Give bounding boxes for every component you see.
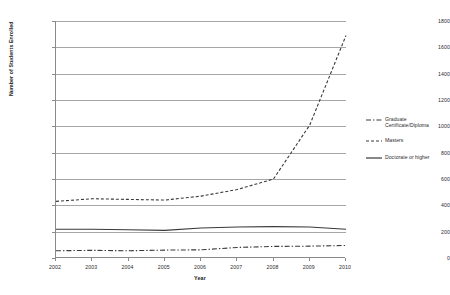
x-tick-mark	[55, 258, 56, 261]
y-tick-label: 200	[404, 229, 450, 235]
legend-item[interactable]: Doctorate or higher	[366, 154, 448, 163]
y-tick-label: 1200	[404, 97, 450, 103]
x-tick-label: 2008	[253, 264, 293, 270]
x-tick-label: 2003	[71, 264, 111, 270]
x-tick-label: 2006	[180, 264, 220, 270]
legend-label: Masters	[385, 137, 403, 143]
x-tick-mark	[273, 258, 274, 261]
y-tick-label: 600	[404, 176, 450, 182]
y-tick-label: 1400	[404, 71, 450, 77]
x-tick-mark	[345, 258, 346, 261]
y-tick-label: 1600	[404, 44, 450, 50]
plot-area	[55, 21, 345, 258]
legend-item[interactable]: GraduateCertificate/Diploma	[366, 116, 448, 129]
x-tick-mark	[309, 258, 310, 261]
series-line	[56, 227, 346, 231]
series-line	[56, 35, 346, 201]
line-chart: Number of Students Enrolled 020040060080…	[0, 0, 450, 295]
x-tick-mark	[91, 258, 92, 261]
x-tick-label: 2009	[289, 264, 329, 270]
chart-legend: GraduateCertificate/DiplomaMastersDoctor…	[366, 116, 448, 171]
x-tick-label: 2002	[35, 264, 75, 270]
x-tick-mark	[128, 258, 129, 261]
series-lines	[56, 21, 346, 258]
x-tick-label: 2004	[108, 264, 148, 270]
x-tick-mark	[200, 258, 201, 261]
x-tick-mark	[164, 258, 165, 261]
x-tick-label: 2010	[325, 264, 365, 270]
legend-swatch-icon	[366, 154, 382, 162]
legend-item[interactable]: Masters	[366, 137, 448, 146]
legend-label: GraduateCertificate/Diploma	[385, 116, 429, 129]
legend-swatch-icon	[366, 116, 382, 124]
y-tick-label: 0	[404, 255, 450, 261]
x-axis-title: Year	[55, 275, 345, 281]
x-tick-label: 2005	[144, 264, 184, 270]
series-line	[56, 245, 346, 250]
y-tick-label: 400	[404, 202, 450, 208]
legend-label: Doctorate or higher	[385, 154, 430, 160]
y-axis-title: Number of Students Enrolled	[8, 0, 14, 96]
x-tick-mark	[236, 258, 237, 261]
y-tick-label: 1800	[404, 18, 450, 24]
x-tick-label: 2007	[216, 264, 256, 270]
legend-swatch-icon	[366, 137, 382, 145]
